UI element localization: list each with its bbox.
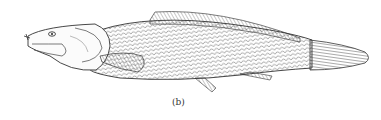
pelvic-fin <box>195 78 216 92</box>
fish-illustration <box>0 0 381 120</box>
fish-head <box>28 24 110 70</box>
figure-panel: (b) <box>0 0 381 120</box>
tail-fin <box>310 40 369 70</box>
fish-body <box>90 20 312 79</box>
figure-caption: (b) <box>172 97 185 107</box>
anal-fin <box>240 72 272 80</box>
